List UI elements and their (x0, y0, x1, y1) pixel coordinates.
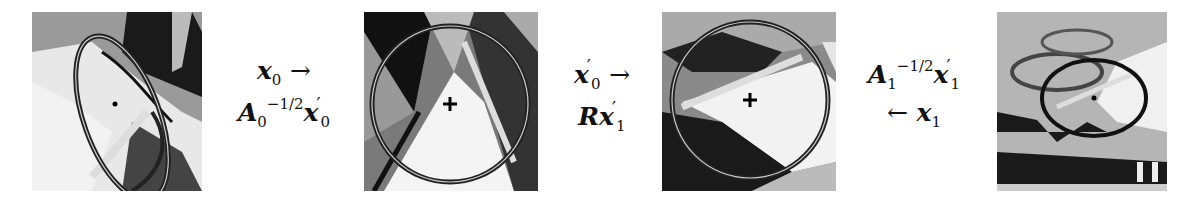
transform-3-line-1: A1−1/2x′1 (846, 58, 982, 92)
center-point-dot (1092, 96, 1097, 101)
patch-0-image (32, 12, 202, 191)
transform-2-line-2: Rx′1 (556, 100, 648, 134)
patch-0-normalized-graphic (364, 12, 538, 191)
transform-label-1: x0 → A0−1/2x′0 (222, 58, 346, 138)
transform-label-3: A1−1/2x′1 ← x1 (846, 58, 982, 138)
patch-1-normalized-graphic (662, 12, 836, 191)
patch-0-normalized-image (364, 12, 538, 191)
transform-1-line-2: A0−1/2x′0 (222, 96, 346, 130)
patch-0-graphic (32, 12, 202, 191)
patch-1-image (997, 12, 1167, 191)
transform-3-line-2: ← x1 (846, 100, 982, 130)
transform-2-line-1: x′0 → (556, 58, 648, 92)
patch-1-normalized-image (662, 12, 836, 191)
transform-1-line-1: x0 → (222, 58, 346, 88)
transform-label-2: x′0 → Rx′1 (556, 58, 648, 142)
patch-1-graphic (997, 12, 1167, 191)
center-point-dot (113, 102, 118, 107)
